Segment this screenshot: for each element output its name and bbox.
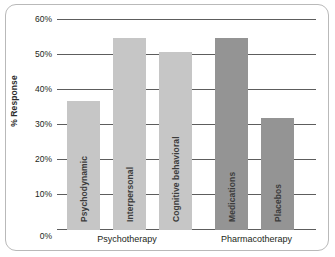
bar-label: Psychodynamic [79, 156, 89, 222]
plot-area: 0%10%20%30%40%50%60%PsychodynamicInterpe… [57, 20, 316, 230]
y-axis-tick-label: 30% [35, 119, 52, 129]
bar-medications[interactable]: Medications [215, 38, 248, 231]
group-label-pharmacotherapy: Pharmacotherapy [197, 234, 316, 244]
y-axis-title: % Response [9, 61, 19, 141]
bar-cognitive-behavioral[interactable]: Cognitive behavioral [159, 52, 192, 231]
gridline-60: 60% [57, 19, 316, 20]
bar-label: Cognitive behavioral [171, 136, 181, 222]
y-axis-tick-label: 0% [40, 231, 52, 241]
y-axis-tick-label: 50% [35, 49, 52, 59]
bar-interpersonal[interactable]: Interpersonal [113, 38, 146, 231]
y-axis-tick-label: 40% [35, 84, 52, 94]
bar-label: Interpersonal [125, 167, 135, 222]
y-axis-tick-label: 10% [35, 189, 52, 199]
group-label-psychotherapy: Psychotherapy [57, 234, 197, 244]
y-axis-tick-label: 20% [35, 154, 52, 164]
bar-placebos[interactable]: Placebos [261, 118, 294, 230]
bar-label: Placebos [273, 184, 283, 222]
y-axis-tick-label: 60% [35, 14, 52, 24]
bar-label: Medications [227, 172, 237, 222]
chart-figure: % Response 0%10%20%30%40%50%60%Psychodyn… [0, 0, 335, 257]
bar-psychodynamic[interactable]: Psychodynamic [67, 101, 100, 231]
